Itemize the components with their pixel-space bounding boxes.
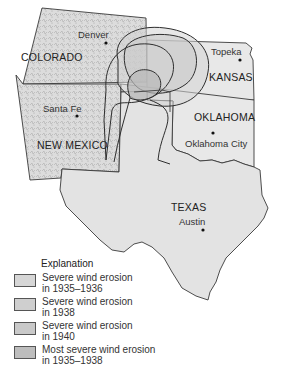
legend-label: Severe wind erosion in 1935–1936 (42, 272, 133, 294)
legend-label-line1: Severe wind erosion (42, 272, 133, 283)
city-label-oklahoma-city: Oklahoma City (185, 139, 247, 149)
legend-label-line2: in 1935–1938 (42, 355, 155, 366)
legend-label-line2: in 1938 (42, 307, 133, 318)
state-label-colorado: COLORADO (21, 52, 83, 63)
austin-dot (201, 228, 204, 231)
state-label-new-mexico: NEW MEXICO (37, 140, 108, 151)
legend-item: Severe wind erosion in 1940 (14, 320, 284, 342)
city-label-santa-fe: Santa Fe (43, 104, 82, 114)
legend-label: Severe wind erosion in 1940 (42, 320, 133, 342)
legend-swatch-1938 (14, 298, 36, 311)
denver-dot (104, 41, 107, 44)
topeka-dot (238, 58, 241, 61)
city-label-topeka: Topeka (211, 47, 242, 57)
legend-label-line2: in 1935–1936 (42, 283, 133, 294)
legend-label-line1: Most severe wind erosion (42, 344, 155, 355)
city-label-denver: Denver (78, 30, 109, 40)
legend-label-line2: in 1940 (42, 331, 133, 342)
legend-title: Explanation (41, 258, 284, 269)
legend-swatch-most-severe (14, 346, 36, 359)
state-label-oklahoma: OKLAHOMA (194, 112, 255, 123)
legend-item: Most severe wind erosion in 1935–1938 (14, 344, 284, 366)
oklahoma-city-dot (211, 131, 214, 134)
santa-fe-dot (75, 114, 78, 117)
legend-item: Severe wind erosion in 1938 (14, 296, 284, 318)
legend-label-line1: Severe wind erosion (42, 320, 133, 331)
legend-item: Severe wind erosion in 1935–1936 (14, 272, 284, 294)
legend-label: Severe wind erosion in 1938 (42, 296, 133, 318)
state-label-kansas: KANSAS (209, 72, 253, 83)
new-mexico-region (16, 75, 121, 180)
state-label-texas: TEXAS (171, 202, 206, 213)
city-label-austin: Austin (179, 217, 205, 227)
map-legend: Explanation Severe wind erosion in 1935–… (14, 258, 284, 368)
legend-label-line1: Severe wind erosion (42, 296, 133, 307)
legend-swatch-1940 (14, 322, 36, 335)
legend-label: Most severe wind erosion in 1935–1938 (42, 344, 155, 366)
legend-swatch-1935-1936 (14, 274, 36, 287)
